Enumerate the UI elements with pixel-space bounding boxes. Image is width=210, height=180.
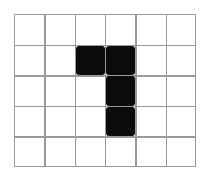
- grid-line-vertical-4: [135, 14, 136, 167]
- grid-line-horizontal-3: [14, 106, 196, 107]
- puzzle-canvas: [0, 0, 210, 180]
- grid-line-horizontal-5: [14, 166, 196, 167]
- shape-cell-arm-left: [76, 46, 105, 76]
- grid-line-horizontal-0: [14, 14, 196, 15]
- grid-line-vertical-5: [166, 14, 167, 167]
- shape-cell-corner: [106, 46, 135, 76]
- grid-line-vertical-1: [44, 14, 45, 167]
- grid-line-horizontal-4: [14, 136, 196, 137]
- shape-cell-stem-bottom: [106, 107, 135, 137]
- grid-line-vertical-3: [105, 14, 106, 167]
- grid-line-vertical-6: [195, 14, 196, 167]
- grid[interactable]: [14, 14, 196, 167]
- grid-line-horizontal-2: [14, 75, 196, 76]
- grid-line-vertical-2: [75, 14, 76, 167]
- shape-cell-stem-middle: [106, 76, 135, 106]
- grid-line-vertical-0: [14, 14, 15, 167]
- grid-line-horizontal-1: [14, 45, 196, 46]
